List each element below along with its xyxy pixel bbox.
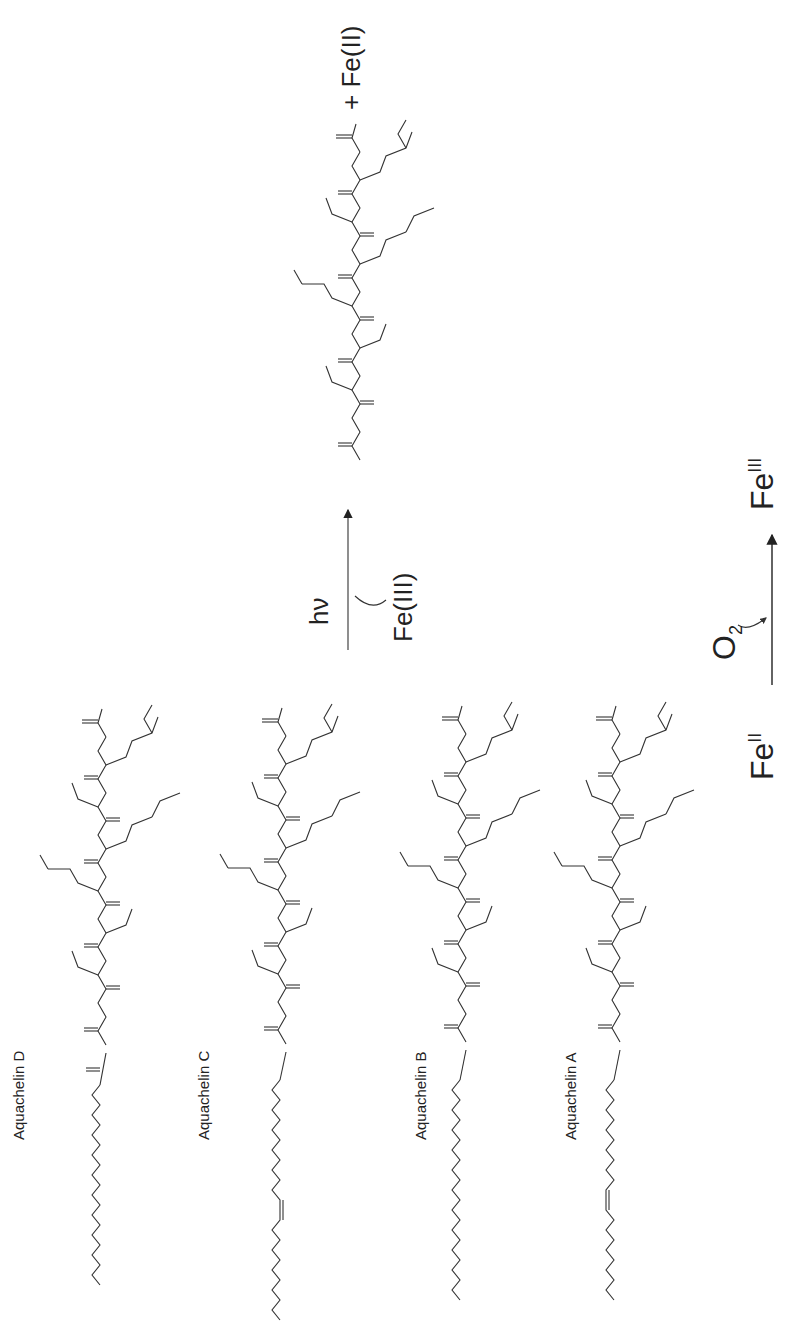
molecule-aquachelin-b	[400, 702, 540, 1300]
molecule-aquachelin-c	[220, 704, 360, 1320]
fatty-acid-tail	[452, 1080, 460, 1300]
molecule-product-peptide	[294, 120, 434, 460]
fe3-curved-arrow	[355, 596, 386, 605]
o2-curved-arrow	[738, 618, 766, 627]
molecule-aquachelin-a	[554, 702, 694, 1300]
molecule-aquachelin-d	[40, 705, 180, 1285]
fatty-acid-tail	[272, 1080, 280, 1320]
reaction-diagram	[0, 0, 802, 1330]
fatty-acid-tail	[92, 1085, 100, 1285]
fatty-acid-tail	[606, 1080, 614, 1300]
